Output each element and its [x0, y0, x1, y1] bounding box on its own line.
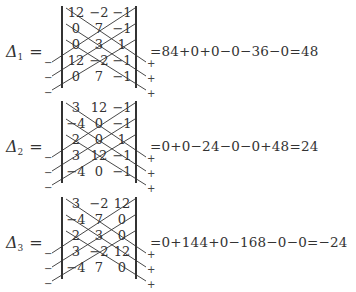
delta-subscript: 1: [18, 52, 24, 62]
plus-sign: +: [147, 184, 155, 194]
plus-sign: +: [147, 169, 155, 179]
matrix-cell: −1: [109, 22, 135, 36]
matrix-cell: −1: [109, 165, 135, 179]
minus-sign: −: [44, 153, 52, 163]
delta-1-label: Δ1=: [6, 42, 43, 62]
matrix-cell: 0: [109, 229, 135, 243]
minus-sign: −: [44, 279, 52, 289]
matrix-cell: −1: [109, 54, 135, 68]
expansion-result: =0+0−24−0−0+48=24: [150, 138, 318, 154]
minus-sign: −: [44, 168, 52, 178]
matrix-cell: 1: [109, 133, 135, 147]
plus-sign: +: [147, 89, 155, 99]
delta-3-label: Δ3=: [6, 233, 43, 253]
matrix-cell: −1: [109, 6, 135, 20]
matrix-right-bar: [135, 197, 137, 279]
delta-symbol: Δ: [6, 42, 18, 61]
minus-sign: −: [44, 88, 52, 98]
minus-sign: −: [44, 58, 52, 68]
delta-subscript: 3: [18, 243, 24, 253]
minus-sign: −: [44, 73, 52, 83]
determinant-delta-1: Δ1= 12 −2 −1 0 7 −1 0 3 1 12 −2 −1 0 7 −…: [0, 4, 356, 100]
minus-sign: −: [44, 264, 52, 274]
plus-sign: +: [147, 250, 155, 260]
matrix-cell: −1: [109, 149, 135, 163]
plus-sign: +: [147, 280, 155, 290]
delta-symbol: Δ: [6, 137, 18, 156]
matrix-right-bar: [135, 6, 137, 88]
matrix-cell: 1: [109, 38, 135, 52]
matrix-right-bar: [135, 101, 137, 183]
determinant-delta-2: Δ2= 3 12 −1 −4 0 −1 2 0 1 3 12 −1 −4 0 −…: [0, 99, 356, 195]
minus-sign: −: [44, 183, 52, 193]
matrix-cell: 0: [109, 261, 135, 275]
matrix-cell: −1: [109, 70, 135, 84]
matrix-cell: −1: [109, 101, 135, 115]
determinant-delta-3: Δ3= 3 −2 12 −4 7 0 2 3 0 3 −2 12 −4 7 0 …: [0, 195, 356, 291]
equals-sign: =: [29, 137, 42, 156]
delta-subscript: 2: [18, 147, 24, 157]
matrix-cell: −1: [109, 117, 135, 131]
plus-sign: +: [147, 265, 155, 275]
matrix-cell: 12: [109, 197, 135, 211]
delta-2-label: Δ2=: [6, 137, 43, 157]
delta-symbol: Δ: [6, 233, 18, 252]
expansion-result: =84+0+0−0−36−0=48: [150, 43, 318, 59]
minus-sign: −: [44, 249, 52, 259]
equals-sign: =: [29, 233, 42, 252]
plus-sign: +: [147, 74, 155, 84]
matrix-cell: 12: [109, 245, 135, 259]
matrix-cell: 0: [109, 213, 135, 227]
equals-sign: =: [29, 42, 42, 61]
plus-sign: +: [147, 59, 155, 69]
plus-sign: +: [147, 154, 155, 164]
expansion-result: =0+144+0−168−0−0=−24: [150, 234, 348, 250]
